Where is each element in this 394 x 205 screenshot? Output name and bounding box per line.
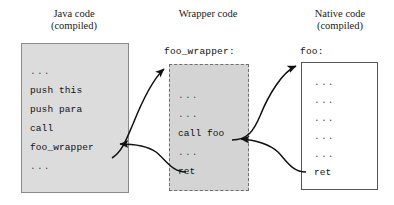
wrapper-code-line-3: ... <box>178 147 199 158</box>
java-code-line-1: push this <box>30 85 82 96</box>
native-code-line-3: ... <box>314 131 335 142</box>
return-arrow-native-to-wrapper <box>241 139 306 172</box>
code-label-foo: foo: <box>300 46 324 57</box>
column-title-wrapper-code: Wrapper code <box>152 8 264 20</box>
wrapper-code-line-2: call foo <box>178 128 224 139</box>
wrapper-code-line-0: ... <box>178 90 199 101</box>
native-code-line-2: ... <box>314 113 335 124</box>
wrapper-code-line-1: ... <box>178 109 199 120</box>
java-code-line-4: foo_wrapper <box>30 142 94 153</box>
column-title-java-code: Java code (compiled) <box>18 8 130 32</box>
native-code-line-5: ret <box>314 167 331 178</box>
column-title-native-code: Native code (compiled) <box>288 8 392 32</box>
diagram-canvas: Java code (compiled) Wrapper code Native… <box>0 0 394 205</box>
native-code-line-0: ... <box>314 77 335 88</box>
java-code-line-2: push para <box>30 104 82 115</box>
code-box-native <box>301 62 378 190</box>
native-code-line-4: ... <box>314 149 335 160</box>
wrapper-code-line-4: ret <box>178 166 195 177</box>
java-code-line-0: ... <box>30 66 51 77</box>
java-code-line-3: call <box>30 123 53 134</box>
native-code-line-1: ... <box>314 95 335 106</box>
code-label-foo-wrapper: foo_wrapper: <box>164 46 235 57</box>
java-code-line-5: ... <box>30 161 51 172</box>
